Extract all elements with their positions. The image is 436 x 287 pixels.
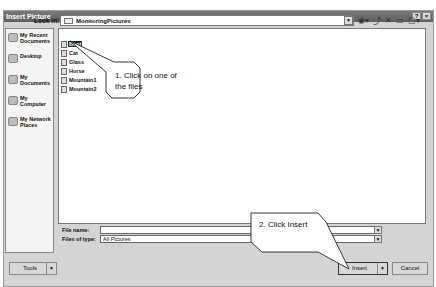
place-my-documents[interactable]: My Documents <box>6 71 53 92</box>
my-documents-icon <box>8 75 18 84</box>
image-file-icon <box>61 68 67 75</box>
place-network-places[interactable]: My Network Places <box>6 113 53 134</box>
folder-icon <box>64 18 73 24</box>
my-computer-icon <box>8 96 18 105</box>
image-file-icon <box>61 41 67 48</box>
image-file-icon <box>61 77 67 84</box>
places-bar: My Recent Documents Desktop My Documents… <box>5 28 54 253</box>
file-item-cat[interactable]: Cat <box>61 49 79 57</box>
back-icon[interactable]: ◉▾ <box>358 16 369 25</box>
chevron-down-icon[interactable]: ▼ <box>46 263 56 274</box>
files-of-type-label: Files of type: <box>62 236 96 242</box>
file-item-horse[interactable]: Horse <box>61 67 86 75</box>
close-button[interactable]: × <box>422 12 431 20</box>
place-my-computer[interactable]: My Computer <box>6 92 53 113</box>
file-item-glass[interactable]: Glass <box>61 58 85 66</box>
network-places-icon <box>8 117 18 126</box>
views-icon[interactable]: ▢▾ <box>408 16 420 25</box>
chevron-down-icon[interactable]: ▼ <box>377 263 387 274</box>
image-file-icon <box>61 86 67 93</box>
cancel-button[interactable]: Cancel <box>392 262 428 275</box>
look-in-value: MonitoringPictures <box>76 17 131 25</box>
toolbar: ◉▾ ⤴ ✕ ▭ ▢▾ <box>358 15 420 26</box>
insert-button[interactable]: Insert ▼ <box>338 262 388 275</box>
image-file-icon <box>61 59 67 66</box>
file-name-input[interactable]: ▼ <box>100 226 382 234</box>
file-item-mountain1[interactable]: Mountain1 <box>61 76 98 84</box>
desktop-icon <box>8 54 18 63</box>
place-recent-documents[interactable]: My Recent Documents <box>6 29 53 50</box>
files-of-type-value: All Pictures <box>103 236 131 242</box>
chevron-down-icon[interactable]: ▼ <box>374 235 382 243</box>
up-folder-icon[interactable]: ⤴ <box>373 15 381 26</box>
look-in-dropdown[interactable]: MonitoringPictures ▼ <box>60 15 354 26</box>
recent-documents-icon <box>8 33 18 42</box>
chevron-down-icon[interactable]: ▼ <box>374 226 382 234</box>
chevron-down-icon[interactable]: ▼ <box>344 16 353 25</box>
file-name-label: File name: <box>62 227 89 233</box>
tools-button[interactable]: Tools ▼ <box>9 262 57 275</box>
file-item-mountain2[interactable]: Mountain2 <box>61 85 98 93</box>
file-item-boat[interactable]: Boat <box>61 40 82 48</box>
delete-icon[interactable]: ✕ <box>385 16 392 25</box>
image-file-icon <box>61 50 67 57</box>
new-folder-icon[interactable]: ▭ <box>396 16 404 25</box>
file-list[interactable]: Boat Cat Glass Horse Mountain1 Mountain2 <box>58 28 426 224</box>
place-desktop[interactable]: Desktop <box>6 50 53 71</box>
look-in-label: Look in: <box>34 17 59 24</box>
files-of-type-select[interactable]: All Pictures ▼ <box>100 235 382 243</box>
